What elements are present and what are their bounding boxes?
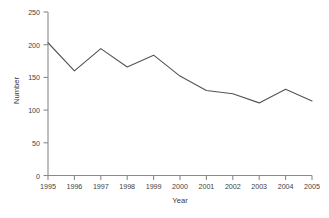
y-tick-label-200: 200	[14, 41, 40, 50]
y-axis-ticks	[44, 12, 49, 176]
y-tick-label-250: 250	[14, 8, 40, 17]
x-tick-label-2005: 2005	[297, 182, 327, 191]
x-axis-ticks	[48, 176, 312, 181]
y-axis-title: Number	[12, 61, 21, 121]
y-tick-label-50: 50	[14, 139, 40, 148]
line-chart: . 250 200 150 10	[0, 0, 329, 218]
x-axis-title: Year	[48, 196, 312, 205]
y-tick-label-0: 0	[14, 172, 40, 181]
data-series-line	[48, 43, 312, 103]
axis-lines	[48, 12, 312, 176]
